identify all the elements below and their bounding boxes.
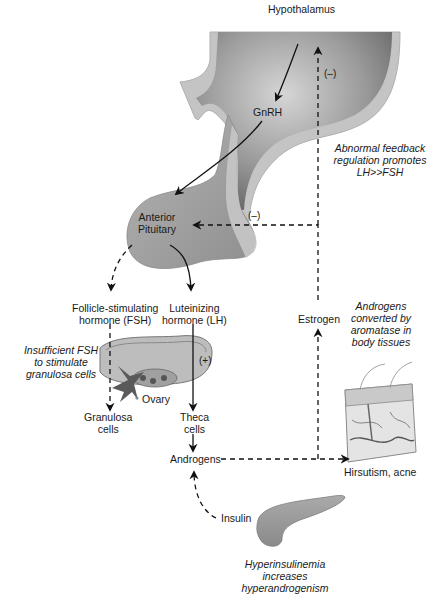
- feedback-line1: Abnormal feedback: [328, 142, 432, 154]
- fsh-insufficient-annotation: Insufficient FSH to stimulate granulosa …: [18, 344, 104, 380]
- arrow-pituitary-to-fsh: [111, 245, 132, 290]
- aromatase-annotation: Androgens converted by aromatase in body…: [340, 300, 422, 348]
- gnrh-label: GnRH: [253, 106, 282, 118]
- fsh-insufficient-line1: Insufficient FSH: [18, 344, 104, 356]
- hyperinsulinemia-line1: Hyperinsulinemia: [240, 558, 330, 570]
- fsh-label: Follicle-stimulating hormone (FSH): [72, 302, 158, 326]
- lh-label: Luteinizing hormone (LH): [162, 302, 227, 326]
- aromatase-line3: aromatase in: [340, 324, 422, 336]
- insulin-label: Insulin: [221, 512, 251, 524]
- feedback-annotation: Abnormal feedback regulation promotes LH…: [328, 142, 432, 178]
- granulosa-line1: Granulosa: [84, 411, 132, 423]
- anterior-pituitary-line2: Pituitary: [138, 223, 176, 235]
- arrow-insulin-to-androgens: [194, 472, 216, 518]
- feedback-line3: LH>>FSH: [328, 166, 432, 178]
- fsh-insufficient-line3: granulosa cells: [18, 368, 104, 380]
- androgens-label: Androgens: [170, 453, 221, 465]
- granulosa-line2: cells: [84, 423, 132, 435]
- anterior-pituitary-label: Anterior Pituitary: [138, 211, 176, 235]
- skin-illustration: [345, 362, 416, 462]
- theca-line1: Theca: [180, 411, 209, 423]
- lh-line1: Luteinizing: [162, 302, 227, 314]
- aromatase-line4: body tissues: [340, 336, 422, 348]
- aromatase-line2: converted by: [340, 312, 422, 324]
- fsh-line2: hormone (FSH): [72, 314, 158, 326]
- hyperinsulinemia-line3: hyperandrogenism: [240, 582, 330, 594]
- granulosa-cells-label: Granulosa cells: [84, 411, 132, 435]
- anterior-pituitary-line1: Anterior: [138, 211, 176, 223]
- hypothalamus-label: Hypothalamus: [268, 3, 335, 15]
- lh-line2: hormone (LH): [162, 314, 227, 326]
- aromatase-line1: Androgens: [340, 300, 422, 312]
- hyperinsulinemia-line2: increases: [240, 570, 330, 582]
- fsh-insufficient-line2: to stimulate: [18, 356, 104, 368]
- sign-negative-pituitary: (–): [248, 210, 260, 222]
- sign-negative-hypothalamus: (–): [324, 68, 336, 80]
- fsh-line1: Follicle-stimulating: [72, 302, 158, 314]
- pcos-diagram: Hypothalamus GnRH Anterior Pituitary (–)…: [0, 0, 443, 611]
- pancreas-illustration: [257, 495, 345, 546]
- ovary-label: Ovary: [142, 393, 170, 405]
- feedback-line2: regulation promotes: [328, 154, 432, 166]
- theca-line2: cells: [180, 423, 209, 435]
- hirsutism-label: Hirsutism, acne: [344, 466, 416, 478]
- hyperinsulinemia-annotation: Hyperinsulinemia increases hyperandrogen…: [240, 558, 330, 594]
- pituitary-shape: [127, 115, 257, 269]
- estrogen-label: Estrogen: [298, 313, 340, 325]
- sign-positive-lh: (+): [199, 355, 212, 367]
- theca-cells-label: Theca cells: [180, 411, 209, 435]
